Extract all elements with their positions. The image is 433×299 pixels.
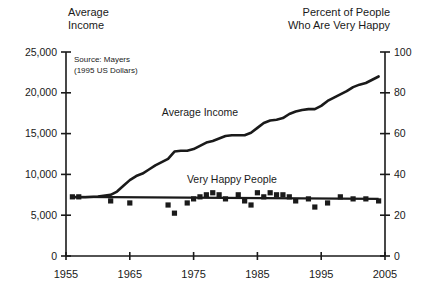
very-happy-trend-line <box>72 197 378 199</box>
very-happy-data-point <box>172 211 177 216</box>
left-tick-label: 5,000 <box>31 209 57 221</box>
annotation-layer: Average IncomeVery Happy People <box>162 106 277 185</box>
very-happy-data-point <box>108 198 113 203</box>
left-axis-title-line2: Income <box>68 19 104 31</box>
very-happy-data-point <box>210 190 215 195</box>
income-happiness-chart: Average Income Percent of People Who Are… <box>0 0 433 299</box>
x-tick-label: 1995 <box>309 268 333 280</box>
left-tick-label: 25,000 <box>25 46 57 58</box>
very-happy-data-point <box>274 192 279 197</box>
left-axis-title-line1: Average <box>68 6 109 18</box>
very-happy-data-point <box>280 192 285 197</box>
series-layer <box>70 76 381 215</box>
source-note-line2: (1995 US Dollars) <box>74 66 138 75</box>
x-tick-label: 1975 <box>181 268 205 280</box>
very-happy-data-point <box>255 190 260 195</box>
very-happy-points <box>70 190 381 216</box>
right-tick-label: 0 <box>394 250 400 262</box>
very-happy-data-point <box>127 200 132 205</box>
very-happy-data-point <box>204 192 209 197</box>
average-income-label: Average Income <box>162 106 238 118</box>
very-happy-data-point <box>325 200 330 205</box>
x-tick-label: 1985 <box>245 268 269 280</box>
source-note-line1: Source: Mayers <box>74 55 130 64</box>
very-happy-people-label: Very Happy People <box>187 173 277 185</box>
right-tick-label: 100 <box>394 46 412 58</box>
right-axis-title-line2: Who Are Very Happy <box>288 19 391 31</box>
x-tick-label: 1955 <box>54 268 78 280</box>
chart-container: Average Income Percent of People Who Are… <box>0 0 433 299</box>
right-tick-label: 80 <box>394 86 406 98</box>
left-tick-label: 10,000 <box>25 168 57 180</box>
very-happy-data-point <box>248 202 253 207</box>
right-tick-label: 20 <box>394 209 406 221</box>
right-tick-label: 60 <box>394 127 406 139</box>
left-tick-label: 0 <box>51 250 57 262</box>
very-happy-data-point <box>268 190 273 195</box>
very-happy-data-point <box>165 202 170 207</box>
right-tick-label: 40 <box>394 168 406 180</box>
left-tick-label: 15,000 <box>25 127 57 139</box>
x-tick-label: 1965 <box>118 268 142 280</box>
very-happy-data-point <box>242 198 247 203</box>
x-tick-label: 2005 <box>373 268 397 280</box>
left-tick-label: 20,000 <box>25 86 57 98</box>
very-happy-data-point <box>217 192 222 197</box>
right-axis-title-line1: Percent of People <box>303 6 390 18</box>
very-happy-data-point <box>312 204 317 209</box>
left-axis-ticks: 05,00010,00015,00020,00025,000 <box>25 46 71 262</box>
very-happy-data-point <box>185 200 190 205</box>
very-happy-data-point <box>236 192 241 197</box>
